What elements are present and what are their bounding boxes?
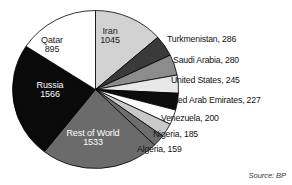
callout-turkmenistan: Turkmenistan, 286 xyxy=(167,34,236,44)
callout-united-arab-emirates: United Arab Emirates, 227 xyxy=(163,95,261,105)
callout-algeria: Algeria, 159 xyxy=(137,144,182,154)
pie-chart-figure: Qatar 895 Iran 1045 Russia 1566 Rest of … xyxy=(0,0,292,185)
source-credit: Source: BP xyxy=(249,171,286,180)
callout-saudi-arabia: Saudi Arabia, 280 xyxy=(173,55,239,65)
callout-united-states: United States, 245 xyxy=(171,75,240,85)
pie-chart-svg xyxy=(0,0,292,185)
callout-venezuela: Venezuela, 200 xyxy=(161,113,219,123)
callout-nigeria: Nigeria, 185 xyxy=(153,129,198,139)
